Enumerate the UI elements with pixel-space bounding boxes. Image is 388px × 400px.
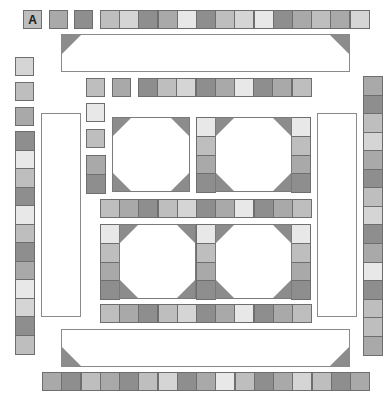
second-row-tile[interactable] [234, 78, 254, 97]
top-row-tile[interactable] [177, 10, 197, 29]
middle-row-tile[interactable] [119, 199, 139, 218]
top-row-tile[interactable] [100, 10, 120, 29]
top-row-tile[interactable] [254, 10, 274, 29]
left-column-tile[interactable] [15, 224, 35, 244]
bottom-row-tile[interactable] [196, 372, 216, 391]
top-row-tile[interactable] [138, 10, 158, 29]
left-column-tile[interactable] [15, 242, 35, 262]
left-column-tile[interactable] [15, 205, 35, 225]
middle-row-tile[interactable] [234, 199, 254, 218]
block-tile[interactable] [291, 173, 311, 193]
tile[interactable] [74, 10, 93, 29]
block-tile[interactable] [100, 243, 120, 263]
left-column-tile[interactable] [15, 335, 35, 355]
tile[interactable] [15, 107, 34, 126]
left-column-tile[interactable] [15, 279, 35, 299]
right-column-tile[interactable] [363, 262, 383, 282]
tile[interactable] [15, 82, 34, 101]
block-tile[interactable] [196, 155, 216, 175]
block-tile[interactable] [291, 136, 311, 156]
middle-row-tile[interactable] [100, 199, 120, 218]
bottom-row-tile[interactable] [158, 372, 178, 391]
left-column-tile[interactable] [15, 298, 35, 318]
left-column-tile[interactable] [15, 187, 35, 207]
block-tile[interactable] [196, 243, 216, 263]
right-column-tile[interactable] [363, 150, 383, 170]
block-tile[interactable] [291, 155, 311, 175]
lower-row-tile[interactable] [196, 304, 216, 323]
left-column-tile[interactable] [15, 131, 35, 151]
block-tile[interactable] [291, 280, 311, 300]
top-row-tile[interactable] [234, 10, 254, 29]
lower-row-tile[interactable] [100, 304, 120, 323]
top-row-tile[interactable] [292, 10, 312, 29]
right-column-tile[interactable] [363, 169, 383, 189]
right-column-tile[interactable] [363, 336, 383, 356]
second-row-tile[interactable] [138, 78, 158, 97]
lower-row-tile[interactable] [254, 304, 274, 323]
block-tile[interactable] [196, 280, 216, 300]
second-row-tile[interactable] [176, 78, 196, 97]
inner-left-column-tile[interactable] [86, 155, 106, 175]
block-tile[interactable] [196, 224, 216, 244]
second-row-tile[interactable] [253, 78, 273, 97]
bottom-row-tile[interactable] [138, 372, 158, 391]
block-tile[interactable] [196, 173, 216, 193]
right-column-tile[interactable] [363, 317, 383, 337]
tile[interactable] [86, 103, 105, 122]
second-row-tile[interactable] [215, 78, 235, 97]
lower-row-tile[interactable] [158, 304, 178, 323]
second-row-tile[interactable] [157, 78, 177, 97]
second-row-tile[interactable] [196, 78, 216, 97]
top-row-tile[interactable] [350, 10, 370, 29]
lower-row-tile[interactable] [138, 304, 158, 323]
bottom-row-tile[interactable] [100, 372, 120, 391]
middle-row-tile[interactable] [158, 199, 178, 218]
right-column-tile[interactable] [363, 187, 383, 207]
tile[interactable] [86, 129, 105, 148]
left-column-tile[interactable] [15, 168, 35, 188]
right-column-tile[interactable] [363, 76, 383, 96]
left-column-tile[interactable] [15, 316, 35, 336]
block-tile[interactable] [291, 262, 311, 282]
letter-tile[interactable]: A [23, 10, 42, 29]
right-column-tile[interactable] [363, 299, 383, 319]
top-row-tile[interactable] [158, 10, 178, 29]
left-column-tile[interactable] [15, 261, 35, 281]
bottom-row-tile[interactable] [235, 372, 255, 391]
bottom-row-tile[interactable] [177, 372, 197, 391]
tile[interactable] [49, 10, 68, 29]
bottom-row-tile[interactable] [81, 372, 101, 391]
top-row-tile[interactable] [215, 10, 235, 29]
block-tile[interactable] [196, 136, 216, 156]
middle-row-tile[interactable] [177, 199, 197, 218]
left-panel[interactable] [41, 113, 81, 317]
bottom-row-tile[interactable] [312, 372, 332, 391]
right-column-tile[interactable] [363, 206, 383, 226]
middle-row-tile[interactable] [292, 199, 312, 218]
second-row-tile[interactable] [292, 78, 312, 97]
lower-row-tile[interactable] [292, 304, 312, 323]
top-row-tile[interactable] [119, 10, 139, 29]
right-column-tile[interactable] [363, 224, 383, 244]
right-column-tile[interactable] [363, 132, 383, 152]
middle-row-tile[interactable] [196, 199, 216, 218]
bottom-row-tile[interactable] [215, 372, 235, 391]
bottom-row-tile[interactable] [254, 372, 274, 391]
top-row-tile[interactable] [311, 10, 331, 29]
bottom-panel[interactable] [61, 329, 350, 367]
middle-row-tile[interactable] [254, 199, 274, 218]
bottom-row-tile[interactable] [119, 372, 139, 391]
block-tile[interactable] [196, 117, 216, 137]
tile[interactable] [15, 57, 34, 76]
bottom-row-tile[interactable] [292, 372, 312, 391]
bottom-row-tile[interactable] [273, 372, 293, 391]
middle-row-tile[interactable] [215, 199, 235, 218]
top-panel[interactable] [61, 34, 350, 72]
top-row-tile[interactable] [273, 10, 293, 29]
block-tile[interactable] [100, 262, 120, 282]
block-tile[interactable] [291, 224, 311, 244]
inner-left-column-tile[interactable] [86, 174, 106, 194]
left-column-tile[interactable] [15, 150, 35, 170]
right-column-tile[interactable] [363, 113, 383, 133]
